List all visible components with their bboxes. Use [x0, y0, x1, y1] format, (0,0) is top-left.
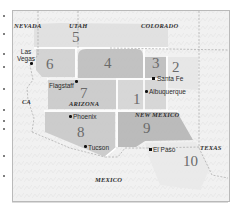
city-dot-albuquerque	[145, 90, 148, 93]
region-9-number[interactable]: 9	[143, 121, 151, 136]
city-dot-phoenix	[69, 115, 72, 118]
city-label-santa-fe: Santa Fe	[157, 76, 183, 83]
city-label-flagstaff: Flagstaff	[49, 83, 74, 90]
state-label-mexico: MEXICO	[95, 177, 122, 184]
state-label-arizona: ARIZONA	[69, 101, 99, 108]
region-1-number[interactable]: 1	[133, 92, 141, 107]
city-dot-santa-fe	[152, 77, 155, 80]
region-7-number[interactable]: 7	[80, 86, 88, 101]
region-10-number[interactable]: 10	[183, 154, 198, 169]
state-label-colorado: COLORADO	[141, 23, 178, 30]
region-3-number[interactable]: 3	[152, 56, 160, 71]
state-label-nevada: NEVADA	[14, 23, 41, 30]
state-label-new-mexico: NEW MEXICO	[135, 112, 179, 119]
state-label-ca: CA	[22, 99, 31, 106]
region-6-number[interactable]: 6	[46, 57, 54, 72]
city-dot-tucson	[84, 145, 87, 148]
city-dot-el-paso	[149, 148, 152, 151]
city-label-albuquerque: Albuquerque	[149, 89, 186, 96]
city-label-las-vegas: Las Vegas	[17, 48, 35, 62]
region-6-area	[36, 49, 75, 77]
state-label-texas: TEXAS	[200, 145, 222, 152]
region-8-number[interactable]: 8	[77, 125, 85, 140]
city-dot-las-vegas	[30, 62, 33, 65]
region-2-number[interactable]: 2	[172, 60, 180, 75]
city-label-el-paso: El Paso	[153, 147, 175, 154]
region-5-number[interactable]: 5	[72, 30, 80, 45]
city-label-phoenix: Phoenix	[73, 114, 97, 121]
region-4-number[interactable]: 4	[104, 56, 112, 71]
city-label-tucson: Tucson	[88, 145, 109, 152]
city-dot-flagstaff	[75, 80, 78, 83]
